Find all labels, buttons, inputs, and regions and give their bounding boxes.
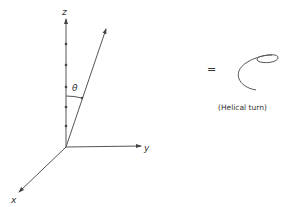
helical-turn-diagram: z y x θ = (Helical turn) [0, 0, 284, 207]
x-axis-label: x [10, 195, 17, 205]
equals-sign: = [207, 63, 216, 76]
theta-arc-end [81, 97, 83, 99]
helical-curve [238, 55, 278, 90]
z-axis-label: z [61, 7, 67, 17]
y-axis [66, 146, 141, 147]
theta-label: θ [72, 83, 78, 93]
theta-arc [66, 96, 82, 98]
y-axis-label: y [143, 143, 150, 153]
x-axis [19, 147, 66, 192]
helix-caption: (Helical turn) [218, 103, 267, 112]
